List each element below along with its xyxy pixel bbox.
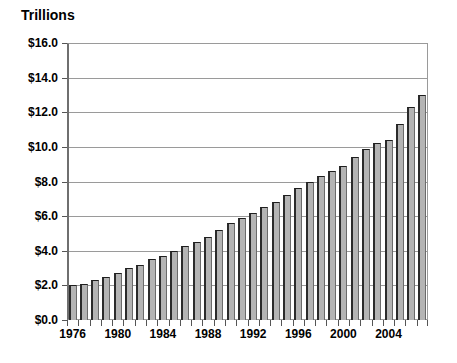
bar: [339, 166, 347, 320]
bar: [102, 277, 110, 320]
x-tick-mark: [225, 320, 226, 326]
bar: [170, 251, 178, 320]
y-tick-label: $10.0: [28, 140, 58, 154]
x-tick-mark: [304, 320, 305, 326]
x-tick-mark: [78, 320, 79, 326]
x-tick-mark: [146, 320, 147, 326]
y-tick-label: $2.0: [35, 278, 58, 292]
bar: [351, 157, 359, 320]
y-axis: $0.0$2.0$4.0$6.0$8.0$10.0$12.0$14.0$16.0: [0, 0, 67, 363]
y-tick-label: $0.0: [35, 313, 58, 327]
y-tick-label: $14.0: [28, 71, 58, 85]
x-axis-ticks: [67, 320, 428, 327]
bar: [125, 268, 133, 320]
bar: [385, 140, 393, 320]
y-tick-label: $8.0: [35, 175, 58, 189]
x-tick-mark: [417, 320, 418, 326]
bar: [294, 188, 302, 320]
x-tick-label: 2004: [375, 327, 402, 341]
bar: [215, 230, 223, 320]
bar: [238, 218, 246, 320]
x-tick-mark: [427, 320, 428, 326]
x-tick-mark: [394, 320, 395, 326]
x-tick-mark: [202, 320, 203, 326]
bar: [91, 280, 99, 320]
x-tick-mark: [293, 320, 294, 326]
y-tick-label: $6.0: [35, 209, 58, 223]
bar: [260, 207, 268, 320]
x-tick-mark: [405, 320, 406, 326]
x-tick-mark: [372, 320, 373, 326]
x-tick-mark: [248, 320, 249, 326]
bar: [407, 107, 415, 320]
x-tick-mark: [349, 320, 350, 326]
x-tick-mark: [326, 320, 327, 326]
bar: [418, 95, 426, 320]
x-tick-mark: [383, 320, 384, 326]
x-tick-mark: [360, 320, 361, 326]
x-tick-mark: [315, 320, 316, 326]
bar: [181, 246, 189, 320]
x-tick-mark: [157, 320, 158, 326]
x-tick-mark: [191, 320, 192, 326]
bar: [136, 265, 144, 320]
x-tick-label: 2000: [330, 327, 357, 341]
x-tick-mark: [281, 320, 282, 326]
x-tick-mark: [259, 320, 260, 326]
bar: [362, 149, 370, 320]
x-tick-label: 1992: [240, 327, 267, 341]
x-tick-mark: [123, 320, 124, 326]
x-tick-mark: [236, 320, 237, 326]
x-tick-mark: [338, 320, 339, 326]
bar: [328, 171, 336, 320]
bar: [283, 195, 291, 320]
bar: [148, 259, 156, 320]
bar: [272, 202, 280, 320]
bar: [193, 242, 201, 320]
bar: [159, 256, 167, 320]
y-tick-label: $12.0: [28, 105, 58, 119]
x-tick-mark: [169, 320, 170, 326]
bar-chart: Trillions $0.0$2.0$4.0$6.0$8.0$10.0$12.0…: [0, 0, 457, 363]
x-tick-label: 1984: [150, 327, 177, 341]
bar: [114, 273, 122, 320]
bar: [373, 143, 381, 320]
bar: [317, 176, 325, 320]
bar: [80, 284, 88, 320]
x-tick-mark: [270, 320, 271, 326]
bar: [249, 213, 257, 320]
x-tick-label: 1996: [285, 327, 312, 341]
x-tick-mark: [180, 320, 181, 326]
x-tick-mark: [112, 320, 113, 326]
bar: [396, 124, 404, 320]
x-tick-mark: [135, 320, 136, 326]
x-tick-label: 1988: [195, 327, 222, 341]
y-tick-label: $4.0: [35, 244, 58, 258]
bar: [306, 182, 314, 321]
x-tick-mark: [90, 320, 91, 326]
bar: [204, 237, 212, 320]
bar: [69, 285, 77, 320]
x-tick-mark: [101, 320, 102, 326]
bars-series: [67, 43, 428, 320]
x-tick-mark: [67, 320, 68, 326]
x-axis-labels: 19761980198419881992199620002004: [0, 327, 457, 351]
bar: [227, 223, 235, 320]
y-tick-label: $16.0: [28, 36, 58, 50]
x-tick-label: 1976: [59, 327, 86, 341]
x-tick-label: 1980: [104, 327, 131, 341]
x-tick-mark: [214, 320, 215, 326]
